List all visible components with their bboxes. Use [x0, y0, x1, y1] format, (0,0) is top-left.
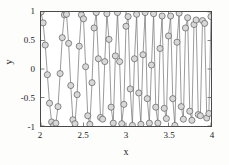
data-point	[168, 13, 174, 19]
data-point	[174, 39, 180, 45]
data-point	[104, 12, 110, 17]
y-tick-label-0: 0	[10, 65, 35, 74]
data-point	[53, 120, 59, 126]
x-tick-label-3p5: 3.5	[157, 131, 181, 140]
data-point	[185, 15, 191, 21]
data-point	[208, 14, 211, 20]
data-point	[206, 110, 211, 116]
data-point	[187, 108, 193, 114]
data-point	[117, 59, 123, 65]
data-point	[144, 96, 150, 102]
data-point	[108, 104, 114, 110]
data-point	[87, 121, 93, 126]
y-tick-label-1: 1	[10, 7, 35, 16]
data-point	[102, 59, 108, 65]
data-point	[159, 13, 165, 19]
data-point	[121, 101, 127, 107]
data-point	[153, 104, 159, 110]
data-point	[148, 62, 154, 68]
data-point	[42, 42, 48, 48]
data-point	[202, 20, 208, 26]
data-point	[146, 120, 152, 126]
data-point	[57, 71, 63, 77]
data-point	[172, 122, 178, 126]
data-point	[41, 20, 46, 26]
data-point	[189, 117, 195, 123]
data-point	[170, 96, 176, 102]
x-tick-label-4: 4	[200, 131, 224, 140]
data-point	[68, 82, 74, 88]
data-point	[89, 80, 95, 86]
y-tick-label-0p5: 0.5	[10, 36, 35, 45]
data-point	[76, 43, 82, 49]
data-point	[182, 25, 188, 31]
data-point	[138, 121, 144, 126]
series-markers	[41, 12, 211, 126]
data-point	[131, 56, 137, 62]
data-point	[85, 113, 91, 119]
data-point	[136, 90, 142, 96]
x-axis-label: x	[124, 146, 129, 157]
plot-area	[40, 11, 212, 127]
data-point	[134, 12, 140, 17]
data-point	[83, 64, 89, 70]
x-tick-label-3: 3	[114, 131, 138, 140]
data-point	[197, 113, 203, 119]
data-point	[119, 121, 125, 126]
data-series-chirp	[41, 12, 211, 126]
data-point	[165, 33, 171, 39]
data-point	[41, 12, 44, 15]
data-point	[72, 121, 78, 126]
data-point	[178, 104, 184, 110]
y-tick-label-neg0p5: -0.5	[7, 94, 35, 103]
data-point	[44, 72, 50, 78]
data-point	[140, 52, 146, 58]
data-point	[95, 56, 101, 62]
data-point	[110, 120, 116, 126]
x-tick-label-2: 2	[28, 131, 52, 140]
data-point	[123, 23, 129, 29]
data-point	[55, 104, 61, 110]
data-point	[157, 45, 163, 51]
data-point	[59, 35, 65, 41]
data-point	[176, 12, 182, 16]
data-point	[106, 36, 112, 42]
data-point	[114, 12, 120, 16]
data-point	[80, 16, 86, 22]
data-point	[180, 116, 186, 122]
data-point	[155, 120, 161, 126]
data-point	[161, 105, 167, 111]
chart-figure: y 1 0.5 0 -0.5 -1 2 2.5 3 3.5 4 x	[0, 0, 229, 165]
data-point	[100, 116, 106, 122]
x-tick-label-2p5: 2.5	[71, 131, 95, 140]
data-point	[151, 12, 157, 17]
data-point	[46, 100, 52, 106]
data-point	[125, 14, 131, 20]
data-point	[91, 25, 97, 31]
data-point	[63, 12, 69, 17]
data-point	[193, 17, 199, 23]
data-point	[112, 53, 118, 59]
data-point	[142, 12, 148, 16]
data-point	[93, 12, 99, 16]
data-point	[163, 116, 169, 122]
data-point	[127, 86, 133, 92]
data-point	[66, 40, 72, 46]
data-point	[74, 92, 80, 98]
data-point	[129, 122, 135, 126]
